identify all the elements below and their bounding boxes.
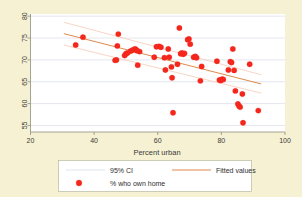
data-point <box>240 120 245 125</box>
x-axis-title: Percent urban <box>133 148 180 157</box>
legend-label-fitted: Fitted values <box>216 167 256 174</box>
y-tick-label-55: 55 <box>21 121 28 129</box>
data-point <box>152 55 157 60</box>
data-point <box>177 25 182 30</box>
data-point <box>233 88 238 93</box>
y-tick-label-60: 60 <box>21 100 28 108</box>
data-point <box>182 51 187 56</box>
data-point <box>167 55 172 60</box>
data-point <box>226 67 231 72</box>
data-point <box>237 104 242 109</box>
data-point <box>256 108 261 113</box>
data-point <box>198 78 203 83</box>
y-tick-label-75: 75 <box>21 34 28 42</box>
data-point <box>231 68 236 73</box>
legend-marker-circle-icon <box>76 180 82 186</box>
x-tick-label-80: 80 <box>217 137 225 144</box>
data-point <box>80 34 85 39</box>
y-tick-label-80: 80 <box>21 12 28 20</box>
data-point <box>166 46 171 51</box>
data-point <box>240 91 245 96</box>
data-point <box>247 62 252 67</box>
legend-box <box>59 161 252 192</box>
y-tick-label-70: 70 <box>21 56 28 64</box>
data-point <box>73 42 78 47</box>
x-tick-label-60: 60 <box>154 137 162 144</box>
data-point <box>214 59 219 64</box>
data-point <box>116 31 121 36</box>
data-point <box>114 57 119 62</box>
data-point <box>137 49 142 54</box>
data-point <box>186 36 191 41</box>
data-point <box>199 64 204 69</box>
data-point <box>187 41 192 46</box>
data-point <box>163 67 168 72</box>
data-point <box>229 60 234 65</box>
data-point <box>175 62 180 67</box>
x-tick-label-40: 40 <box>90 137 98 144</box>
scatter-plot-svg: 556065707580 20406080100 Percent urban 9… <box>0 0 302 197</box>
legend-label-ci: 95% CI <box>110 167 133 174</box>
data-point <box>169 64 174 69</box>
data-point <box>194 55 199 60</box>
chart-figure: 556065707580 20406080100 Percent urban 9… <box>0 0 302 197</box>
data-point <box>158 45 163 50</box>
legend-label-own-home: % who own home <box>110 180 165 187</box>
data-point <box>169 75 174 80</box>
x-tick-label-100: 100 <box>279 137 291 144</box>
data-point <box>162 55 167 60</box>
data-point <box>221 77 226 82</box>
y-tick-label-65: 65 <box>21 78 28 86</box>
data-point <box>230 46 235 51</box>
data-point <box>135 62 140 67</box>
plot-panel <box>31 14 286 132</box>
data-point <box>115 43 120 48</box>
x-tick-label-20: 20 <box>27 137 35 144</box>
data-point <box>170 110 175 115</box>
